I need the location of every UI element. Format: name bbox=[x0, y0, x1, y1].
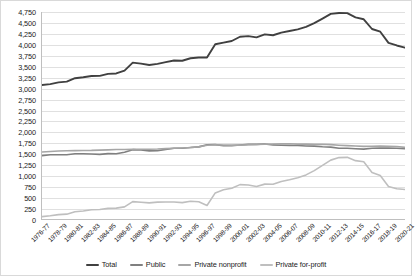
y-axis-tick-label: 4,000 bbox=[18, 41, 36, 48]
legend-item[interactable]: Private for-profit bbox=[260, 260, 327, 269]
y-axis-tick-label: 4,750 bbox=[18, 9, 36, 16]
legend-label: Private for-profit bbox=[276, 260, 327, 269]
legend-item[interactable]: Public bbox=[130, 260, 166, 269]
series-line-private-for-profit bbox=[42, 157, 405, 216]
legend-item[interactable]: Total bbox=[86, 260, 117, 269]
y-axis-tick-label: 2,000 bbox=[18, 129, 36, 136]
y-axis-tick-label: 4,500 bbox=[18, 19, 36, 26]
legend-color-swatch bbox=[86, 264, 99, 266]
legend-label: Public bbox=[146, 260, 166, 269]
y-axis-tick-label: 3,750 bbox=[18, 52, 36, 59]
y-axis-tick-label: 0 bbox=[32, 217, 36, 224]
y-axis-tick-label: 2,750 bbox=[18, 96, 36, 103]
legend-label: Total bbox=[102, 260, 117, 269]
y-axis-tick-label: 1,750 bbox=[18, 140, 36, 147]
series-line-total bbox=[42, 13, 405, 85]
y-axis-tick-label: 1,500 bbox=[18, 151, 36, 158]
legend-color-swatch bbox=[260, 264, 273, 266]
y-axis-tick-label: 3,250 bbox=[18, 74, 36, 81]
legend-label: Private nonprofit bbox=[194, 260, 246, 269]
y-axis-tick-label: 2,250 bbox=[18, 118, 36, 125]
series-container bbox=[42, 12, 405, 219]
y-axis-tick-label: 2,500 bbox=[18, 107, 36, 114]
chart-legend: TotalPublicPrivate nonprofitPrivate for-… bbox=[1, 260, 411, 269]
y-axis-tick-label: 750 bbox=[24, 184, 36, 191]
legend-color-swatch bbox=[130, 264, 143, 266]
y-axis-tick-label: 1,000 bbox=[18, 173, 36, 180]
y-axis-tick-label: 250 bbox=[24, 206, 36, 213]
legend-color-swatch bbox=[178, 264, 191, 266]
y-axis-tick-label: 4,250 bbox=[18, 30, 36, 37]
legend-item[interactable]: Private nonprofit bbox=[178, 260, 246, 269]
y-axis-labels: 4,7504,5004,2504,0003,7503,5003,2503,000… bbox=[1, 12, 39, 220]
plot-wrapper bbox=[41, 12, 405, 220]
y-axis-tick-label: 3,000 bbox=[18, 85, 36, 92]
y-axis-tick-label: 1,250 bbox=[18, 162, 36, 169]
plot-area bbox=[41, 12, 405, 220]
y-axis-tick-label: 500 bbox=[24, 195, 36, 202]
y-axis-tick-label: 3,500 bbox=[18, 63, 36, 70]
